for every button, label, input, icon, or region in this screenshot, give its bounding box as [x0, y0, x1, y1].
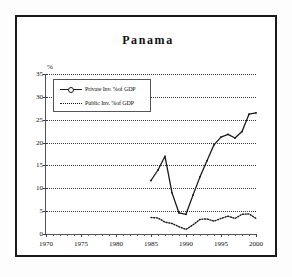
x-tick-label: 2000 — [249, 240, 263, 248]
x-tick-mark-minor — [242, 234, 243, 236]
x-tick-mark-minor — [228, 234, 229, 236]
data-point-private — [255, 112, 257, 114]
legend-solid-line-icon — [60, 86, 82, 92]
x-tick-mark-minor — [130, 234, 131, 236]
y-tick-label: 25 — [36, 116, 43, 124]
data-point-private — [157, 169, 159, 171]
x-tick-mark-minor — [95, 234, 96, 236]
x-tick-mark-minor — [88, 234, 89, 236]
x-tick-mark-minor — [144, 234, 145, 236]
y-tick-label: 30 — [36, 93, 43, 101]
x-tick-mark-minor — [137, 234, 138, 236]
x-tick-label: 1980 — [109, 240, 123, 248]
x-tick-mark-minor — [158, 234, 159, 236]
x-tick-mark-minor — [207, 234, 208, 236]
data-point-private — [178, 212, 180, 214]
legend-label-public: Public Inv. %of GDP — [85, 100, 134, 106]
x-tick-mark — [221, 234, 222, 237]
legend-item-private: Private Inv. %of GDP — [60, 84, 136, 94]
y-tick-label: 10 — [36, 184, 43, 192]
x-tick-mark — [81, 234, 82, 237]
x-tick-mark-minor — [109, 234, 110, 236]
x-tick-mark — [46, 234, 47, 237]
data-point-private — [164, 155, 166, 157]
data-point-private — [248, 113, 250, 115]
data-point-private — [199, 176, 201, 178]
x-tick-mark-minor — [102, 234, 103, 236]
y-tick-label: 35 — [36, 70, 43, 78]
y-tick-label: 0 — [40, 230, 44, 238]
data-point-private — [213, 144, 215, 146]
page-title: Panama — [17, 33, 279, 48]
data-point-private — [234, 137, 236, 139]
x-tick-mark — [256, 234, 257, 237]
chart-frame: Panama % 05101520253035 1970197519801985… — [15, 15, 277, 257]
plot-area: % 05101520253035 19701975198019851990199… — [45, 74, 256, 235]
x-tick-label: 1990 — [179, 240, 193, 248]
data-point-private — [227, 133, 229, 135]
x-tick-mark-minor — [74, 234, 75, 236]
x-tick-label: 1995 — [214, 240, 228, 248]
x-tick-mark — [151, 234, 152, 237]
x-tick-mark-minor — [123, 234, 124, 236]
legend-dotted-line-icon — [60, 100, 82, 106]
data-point-private — [150, 180, 152, 182]
x-tick-mark-minor — [249, 234, 250, 236]
data-point-private — [220, 136, 222, 138]
x-tick-mark-minor — [214, 234, 215, 236]
x-tick-label: 1985 — [144, 240, 158, 248]
x-tick-mark — [186, 234, 187, 237]
x-tick-label: 1975 — [74, 240, 88, 248]
x-tick-mark-minor — [60, 234, 61, 236]
y-tick-label: 20 — [36, 139, 43, 147]
legend-item-public: Public Inv. %of GDP — [60, 98, 134, 108]
chart-legend: Private Inv. %of GDP Public Inv. %of GDP — [53, 79, 151, 112]
x-tick-mark-minor — [172, 234, 173, 236]
legend-label-private: Private Inv. %of GDP — [85, 86, 136, 92]
y-tick-label: 15 — [36, 161, 43, 169]
data-point-private — [241, 131, 243, 133]
x-tick-mark-minor — [193, 234, 194, 236]
figure-canvas: Panama % 05101520253035 1970197519801985… — [0, 0, 292, 277]
x-tick-mark-minor — [165, 234, 166, 236]
data-point-private — [206, 160, 208, 162]
y-tick-label: 5 — [40, 207, 44, 215]
line-public-investment — [151, 214, 256, 230]
data-point-private — [192, 194, 194, 196]
data-point-private — [171, 192, 173, 194]
x-tick-mark — [116, 234, 117, 237]
line-private-investment — [151, 113, 256, 214]
y-axis-unit-label: % — [47, 63, 53, 71]
x-tick-mark-minor — [235, 234, 236, 236]
x-tick-mark-minor — [179, 234, 180, 236]
x-tick-label: 1970 — [39, 240, 53, 248]
data-point-private — [185, 213, 187, 215]
x-tick-mark-minor — [200, 234, 201, 236]
x-tick-mark-minor — [53, 234, 54, 236]
x-tick-mark-minor — [67, 234, 68, 236]
